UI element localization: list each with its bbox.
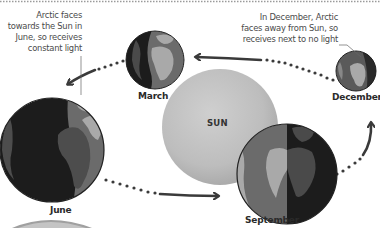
partial-globe-bottom-icon bbox=[12, 220, 92, 228]
annotation-december-line: faces away from Sun, so bbox=[237, 23, 338, 34]
globe-label-september: September bbox=[245, 215, 299, 225]
sun-label: SUN bbox=[207, 118, 228, 128]
annotation-june: Arctic faces towards the Sun in June, so… bbox=[6, 10, 82, 54]
annotation-june-line: June, so receives bbox=[6, 32, 82, 43]
annotation-december-line: receives next to no light bbox=[237, 34, 338, 45]
annotation-december-line: In December, Arctic bbox=[237, 12, 338, 23]
globe-june-icon bbox=[0, 98, 110, 210]
annotation-june-line: Arctic faces bbox=[6, 10, 82, 21]
annotation-june-line: constant light bbox=[6, 43, 82, 54]
annotation-december: In December, Arctic faces away from Sun,… bbox=[237, 12, 338, 45]
globe-label-march: March bbox=[138, 91, 168, 101]
annotation-june-line: towards the Sun in bbox=[6, 21, 82, 32]
globe-label-december: December bbox=[332, 92, 380, 102]
globe-label-june: June bbox=[50, 205, 71, 215]
orbit-arrow-march-to-june bbox=[68, 59, 125, 84]
orbit-diagram: SUN March June September December Arctic… bbox=[0, 0, 380, 228]
